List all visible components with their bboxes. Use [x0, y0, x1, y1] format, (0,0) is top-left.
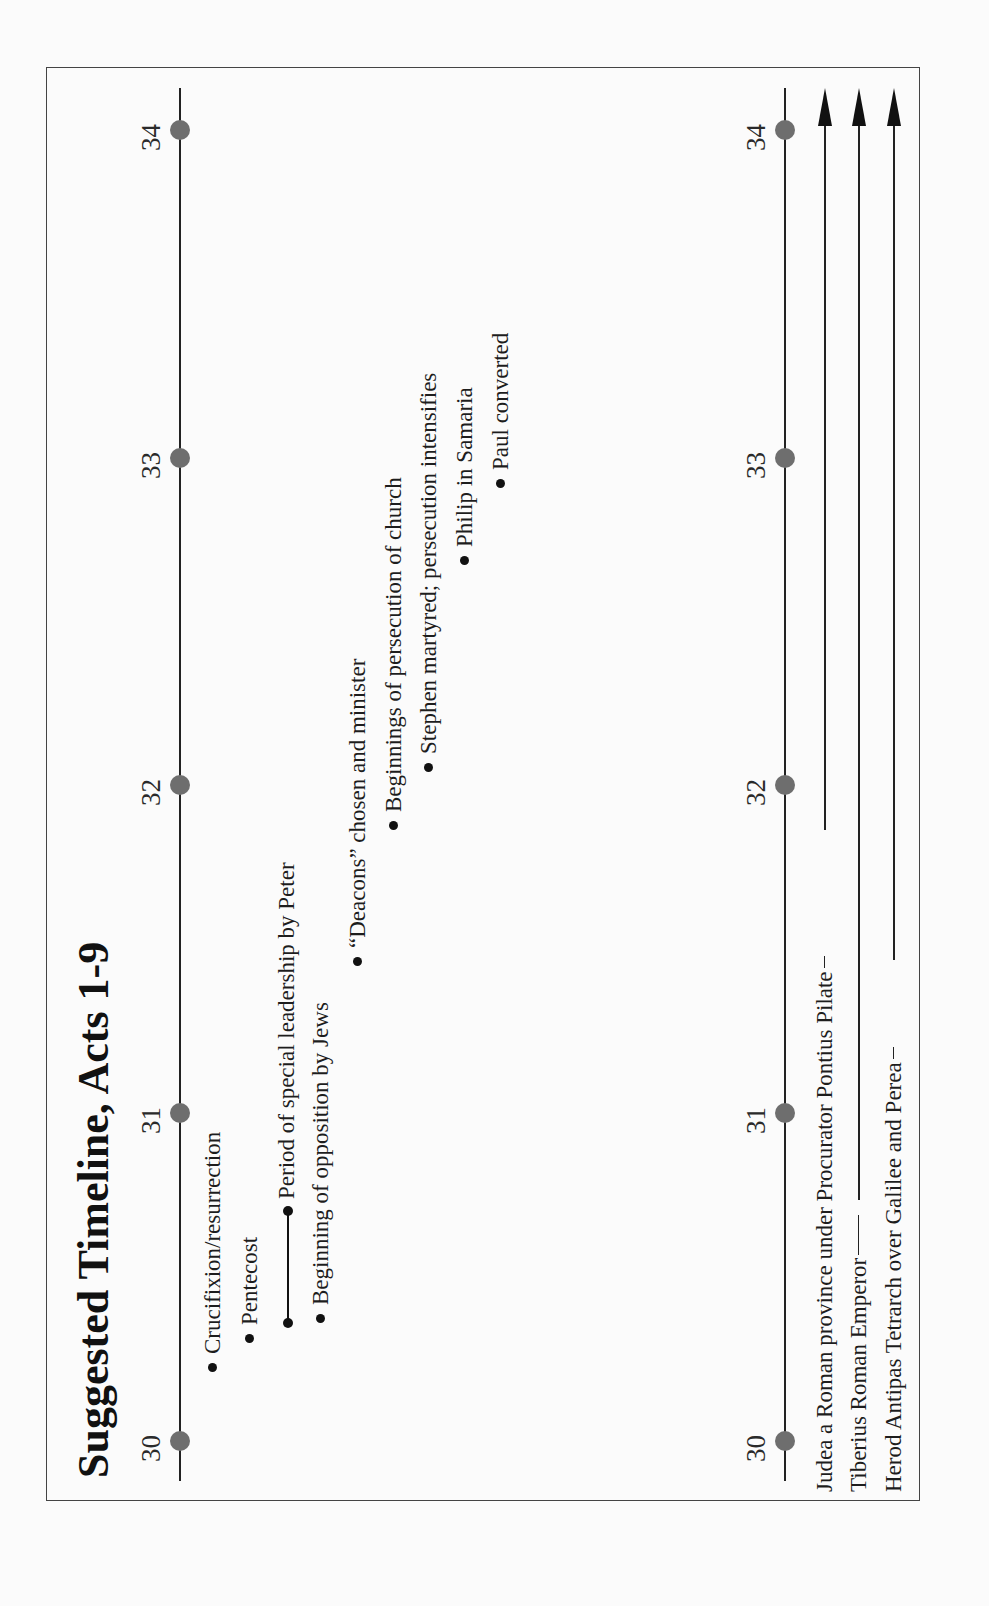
year-label-30: 30 — [743, 1435, 770, 1462]
year-label-31: 31 — [138, 1107, 165, 1134]
year-marker-32 — [170, 775, 190, 795]
year-label-34: 34 — [743, 124, 770, 151]
ruler-tail-line — [824, 956, 826, 968]
year-marker-34 — [170, 120, 190, 140]
arrow-shaft-tiberius — [858, 120, 860, 1200]
span-end-dot — [283, 1206, 293, 1216]
event-paul-converted: Paul converted — [489, 333, 512, 488]
event-label: “Deacons” chosen and minister — [346, 659, 369, 948]
ruler-herod-antipas: Herod Antipas Tetrarch over Galilee and … — [882, 1047, 905, 1492]
year-label-31: 31 — [743, 1107, 770, 1134]
event-opposition-by-jews: Beginning of opposition by Jews — [309, 1002, 332, 1323]
bullet-icon — [460, 556, 469, 565]
event-crucifixion: Crucifixion/resurrection — [201, 1132, 224, 1372]
event-label: Paul converted — [489, 333, 512, 470]
year-label-33: 33 — [138, 452, 165, 479]
event-label: Pentecost — [238, 1237, 261, 1325]
bullet-icon — [316, 1314, 325, 1323]
year-marker-33 — [775, 448, 795, 468]
arrow-up-icon — [887, 88, 901, 126]
event-stephen-martyred: Stephen martyred; persecution intensifie… — [417, 373, 440, 772]
year-label-30: 30 — [138, 1435, 165, 1462]
arrow-up-icon — [852, 88, 866, 126]
arrow-shaft-pilate — [824, 120, 826, 830]
arrow-up-icon — [818, 88, 832, 126]
span-line-peter-leadership — [287, 1212, 289, 1322]
event-persecution-begins: Beginnings of persecution of church — [382, 477, 405, 830]
event-label: Beginnings of persecution of church — [382, 477, 405, 812]
year-marker-31 — [775, 1103, 795, 1123]
ruler-label: Judea a Roman province under Procurator … — [813, 971, 836, 1492]
ruler-label: Herod Antipas Tetrarch over Galilee and … — [882, 1062, 905, 1492]
year-label-32: 32 — [743, 779, 770, 806]
year-marker-34 — [775, 120, 795, 140]
year-label-34: 34 — [138, 124, 165, 151]
event-label: Philip in Samaria — [453, 387, 476, 547]
year-marker-31 — [170, 1103, 190, 1123]
arrow-shaft-herod — [893, 120, 895, 960]
year-label-32: 32 — [138, 779, 165, 806]
year-marker-30 — [170, 1431, 190, 1451]
ruler-tiberius: Tiberius Roman Emperor — [847, 1215, 870, 1492]
event-label: Crucifixion/resurrection — [201, 1132, 224, 1354]
page-title: Suggested Timeline, Acts 1-9 — [72, 942, 116, 1478]
bullet-icon — [208, 1363, 217, 1372]
ruler-pilate: Judea a Roman province under Procurator … — [813, 956, 836, 1492]
event-pentecost: Pentecost — [238, 1237, 261, 1343]
ruler-label: Tiberius Roman Emperor — [847, 1258, 870, 1492]
bullet-icon — [389, 821, 398, 830]
event-deacons-chosen: “Deacons” chosen and minister — [346, 659, 369, 966]
year-label-33: 33 — [743, 452, 770, 479]
bullet-icon — [353, 957, 362, 966]
event-label: Period of special leadership by Peter — [275, 862, 298, 1199]
ruler-tail-line — [893, 1047, 895, 1059]
year-marker-33 — [170, 448, 190, 468]
event-philip-samaria: Philip in Samaria — [453, 387, 476, 565]
bullet-icon — [424, 763, 433, 772]
year-marker-30 — [775, 1431, 795, 1451]
year-marker-32 — [775, 775, 795, 795]
bullet-icon — [496, 479, 505, 488]
bullet-icon — [245, 1334, 254, 1343]
ruler-tail-line — [858, 1215, 860, 1255]
event-label: Beginning of opposition by Jews — [309, 1002, 332, 1305]
event-peter-leadership: Period of special leadership by Peter — [275, 862, 298, 1199]
event-label: Stephen martyred; persecution intensifie… — [417, 373, 440, 754]
